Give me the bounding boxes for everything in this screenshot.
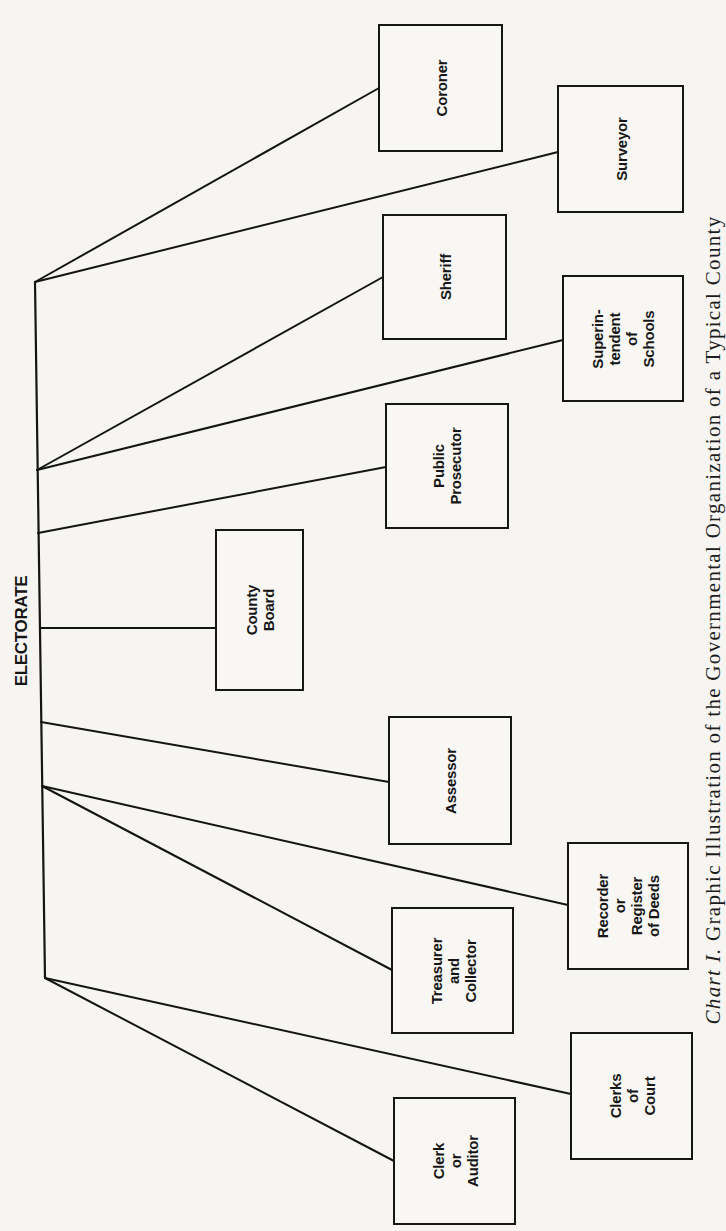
office-label-assessor: Assessor <box>442 748 459 814</box>
caption-text: Chart I. Graphic Illustration of the Gov… <box>701 216 726 1025</box>
connector-treasurer <box>42 786 392 970</box>
office-box-clerks-of-court: Clerks of Court <box>570 1032 693 1160</box>
connector-coroner <box>35 88 379 282</box>
office-box-coroner: Coroner <box>378 24 503 152</box>
office-box-assessor: Assessor <box>388 716 512 845</box>
office-box-county-board: County Board <box>215 529 304 691</box>
connector-assessor <box>41 722 389 782</box>
office-label-coroner: Coroner <box>432 60 449 117</box>
caption-prefix: Chart I. <box>701 948 725 1025</box>
office-label-recorder-of-deeds: Recorder or Register of Deeds <box>594 874 662 938</box>
caption-body: Graphic Illustration of the Governmental… <box>701 216 725 948</box>
office-box-treasurer-and-collector: Treasurer and Collector <box>391 907 514 1034</box>
electorate-trunk-line <box>35 282 45 978</box>
office-label-treasurer-and-collector: Treasurer and Collector <box>427 937 478 1004</box>
connector-sheriff <box>37 277 383 470</box>
office-label-superintendent-of-schools: Superin- tendent of Schools <box>589 309 657 368</box>
office-label-county-board: County Board <box>243 585 277 635</box>
office-box-public-prosecutor: Public Prosecutor <box>385 403 509 529</box>
electorate-text: ELECTORATE <box>12 576 32 687</box>
office-label-sheriff: Sheriff <box>436 254 453 300</box>
office-label-public-prosecutor: Public Prosecutor <box>430 427 464 504</box>
connector-clerk-auditor <box>45 978 394 1161</box>
office-label-clerks-of-court: Clerks of Court <box>606 1074 657 1119</box>
office-box-surveyor: Surveyor <box>557 85 684 213</box>
office-label-clerk-or-auditor: Clerk or Auditor <box>429 1135 480 1187</box>
office-label-surveyor: Surveyor <box>612 117 629 180</box>
office-box-superintendent-of-schools: Superin- tendent of Schools <box>562 275 684 402</box>
office-box-clerk-or-auditor: Clerk or Auditor <box>393 1097 516 1225</box>
office-box-recorder-of-deeds: Recorder or Register of Deeds <box>567 842 689 970</box>
office-box-sheriff: Sheriff <box>382 214 507 340</box>
connector-public-prosecutor <box>38 467 386 533</box>
